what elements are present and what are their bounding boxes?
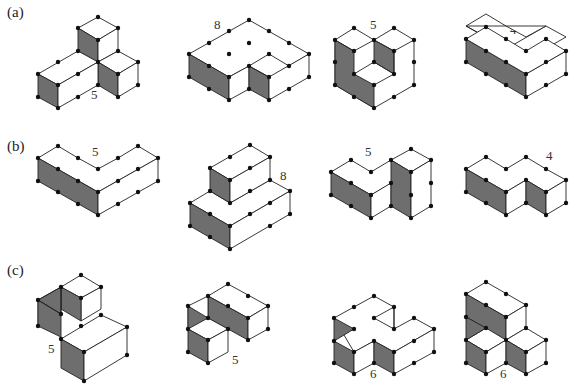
figure-b4: [464, 155, 568, 217]
figure-c2: [186, 282, 270, 365]
figure-b1: [36, 144, 160, 217]
figure-c4: [464, 280, 548, 376]
figure-c1: [36, 273, 129, 383]
figure-a2: [187, 18, 311, 102]
figure-c3: [332, 294, 436, 376]
figure-b2: [188, 143, 292, 251]
figure-a1: [36, 15, 140, 110]
figure-b3: [329, 147, 433, 220]
figure-a3: [333, 26, 416, 110]
polycube-diagram: [0, 0, 570, 384]
figure-a4: [464, 14, 568, 99]
